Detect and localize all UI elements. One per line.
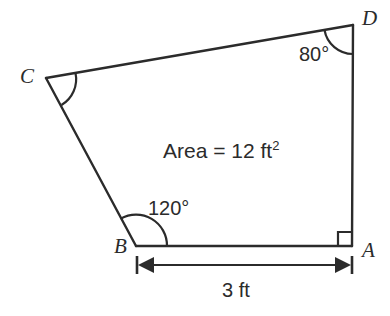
area-annotation: Area = 12 ft2 <box>163 140 279 161</box>
vertex-label-b: B <box>114 236 127 257</box>
dimension-arrowhead-left <box>138 257 154 273</box>
side-da <box>352 25 353 246</box>
area-annotation-exponent: 2 <box>272 138 279 153</box>
vertex-label-d: D <box>362 8 377 29</box>
dimension-arrowhead-right <box>335 257 351 273</box>
vertex-label-c: C <box>20 66 34 87</box>
vertex-label-a: A <box>362 240 375 261</box>
angle-label-d: 80° <box>299 44 329 64</box>
geometry-figure: D C B A 80° 120° Area = 12 ft2 3 ft <box>0 0 390 316</box>
right-angle-marker-a <box>338 232 352 246</box>
dimension-line-ba <box>137 256 352 274</box>
angle-label-b: 120° <box>148 198 189 218</box>
angle-arc-c <box>62 73 77 105</box>
area-annotation-text: Area = 12 ft <box>163 139 272 162</box>
side-bc <box>46 78 136 246</box>
dimension-label-3ft: 3 ft <box>222 280 250 300</box>
